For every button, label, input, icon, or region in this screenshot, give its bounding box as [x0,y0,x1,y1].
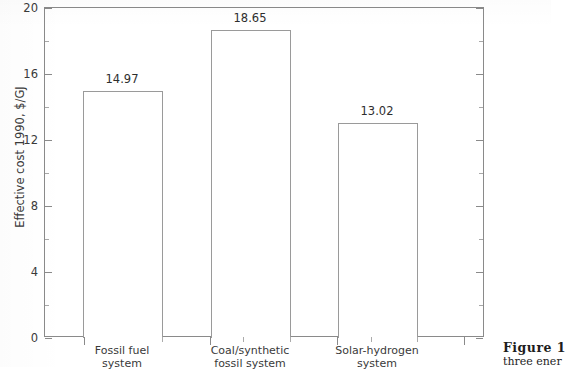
x-tick-minor [290,337,291,342]
x-tick-minor [162,337,163,342]
y-tick-minor-mirror [479,305,483,306]
y-tick-label: 0 [10,331,38,345]
figure-caption: Figure 1 three ener [503,341,569,368]
y-tick-major-mirror [476,272,483,273]
bar [83,91,163,338]
y-tick-label: 8 [10,199,38,213]
plot-frame [44,7,484,337]
figure-caption-body: three ener [503,355,569,368]
x-tick-minor [417,337,418,342]
x-tick-minor [243,337,244,342]
y-tick-major-mirror [476,206,483,207]
bar-value-label: 14.97 [82,72,162,86]
y-tick-label: 4 [10,265,38,279]
y-tick-minor [45,107,49,108]
y-tick-major-mirror [476,8,483,9]
x-tick-major [464,337,465,345]
x-category-label: Solar-hydrogensystem [317,345,437,370]
bar [211,30,291,338]
y-tick-minor-mirror [479,173,483,174]
y-axis-title: Effective cost 1990, $/GJ [13,57,27,257]
x-category-line: system [317,358,437,370]
y-tick-major [45,74,52,75]
x-tick-minor [371,337,372,342]
y-tick-minor [45,173,49,174]
x-category-line: system [62,358,182,370]
x-category-line: fossil system [190,358,310,370]
y-tick-minor [45,41,49,42]
y-tick-minor [45,239,49,240]
bar-value-label: 13.02 [337,104,417,118]
bar-value-label: 18.65 [210,11,290,25]
y-tick-major [45,206,52,207]
y-tick-major-mirror [476,338,483,339]
y-tick-label: 20 [10,1,38,15]
y-tick-label: 12 [10,133,38,147]
y-tick-major [45,338,52,339]
y-tick-major [45,8,52,9]
y-tick-major [45,140,52,141]
figure-caption-title: Figure 1 [503,341,569,355]
x-category-label: Coal/syntheticfossil system [190,345,310,370]
y-tick-minor-mirror [479,41,483,42]
x-tick-major [84,337,85,345]
y-tick-minor-mirror [479,107,483,108]
y-tick-label: 16 [10,67,38,81]
x-category-line: Coal/synthetic [190,345,310,358]
bar [338,123,418,338]
x-category-line: Fossil fuel [62,345,182,358]
y-tick-minor [45,305,49,306]
y-tick-major-mirror [476,74,483,75]
y-tick-minor-mirror [479,239,483,240]
y-axis-area: Effective cost 1990, $/GJ [0,0,44,367]
x-category-line: Solar-hydrogen [317,345,437,358]
y-tick-major-mirror [476,140,483,141]
x-category-label: Fossil fuelsystem [62,345,182,370]
y-tick-major [45,272,52,273]
